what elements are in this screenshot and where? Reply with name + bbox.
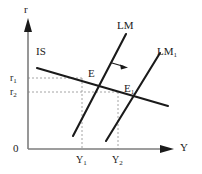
point-E1-subscript: 1 bbox=[131, 88, 135, 96]
equilibrium-point-E1-label: E1 bbox=[124, 83, 134, 94]
y-tick-r1-subscript: 1 bbox=[13, 77, 17, 85]
lm1-curve-label: LM1 bbox=[157, 46, 177, 57]
chart-canvas bbox=[0, 0, 202, 174]
y-tick-r2-subscript: 2 bbox=[13, 91, 17, 99]
x-tick-Y1: Y1 bbox=[76, 155, 87, 165]
x-axis-arrowhead bbox=[160, 145, 174, 153]
lm-curve-label-base: LM bbox=[117, 19, 134, 31]
shift-arrow-icon bbox=[112, 63, 128, 70]
point-E-base: E bbox=[88, 67, 95, 79]
is-curve-label-base: IS bbox=[36, 45, 46, 57]
y-axis-label: r bbox=[24, 4, 28, 15]
x-axis-label: Y bbox=[180, 142, 188, 153]
lm1-curve-label-base: LM bbox=[157, 45, 174, 57]
x-tick-Y2-subscript: 2 bbox=[119, 159, 123, 167]
point-E1-base: E bbox=[124, 82, 131, 94]
axes bbox=[28, 26, 166, 149]
y-tick-r2: r2 bbox=[10, 87, 17, 97]
equilibrium-point-E-label: E bbox=[88, 68, 95, 79]
lm1-curve bbox=[106, 53, 160, 141]
lm-curve-label: LM bbox=[117, 20, 134, 31]
x-tick-Y1-subscript: 1 bbox=[83, 159, 87, 167]
islm-figure: r Y 0 r1 r2 Y1 Y2 IS LM LM1 E E1 bbox=[0, 0, 202, 174]
y-axis-arrowhead bbox=[24, 18, 32, 32]
lm1-curve-label-subscript: 1 bbox=[174, 51, 178, 59]
is-curve-label: IS bbox=[36, 46, 46, 57]
origin-label: 0 bbox=[13, 143, 19, 154]
y-tick-r1: r1 bbox=[10, 73, 17, 83]
x-tick-Y2: Y2 bbox=[112, 155, 123, 165]
